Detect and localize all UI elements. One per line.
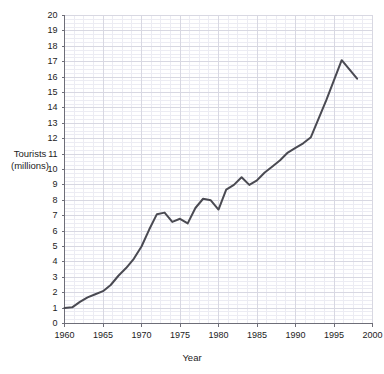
y-tick-label: 11 [38, 150, 58, 159]
x-tick-label: 2000 [353, 331, 384, 340]
y-tick-label: 4 [38, 257, 58, 266]
y-tick-label: 7 [38, 211, 58, 220]
y-tick-label: 2 [38, 288, 58, 297]
x-tick-label: 1990 [276, 331, 316, 340]
y-tick-label: 3 [38, 273, 58, 282]
y-tick-label: 10 [38, 165, 58, 174]
x-tick-label: 1975 [160, 331, 200, 340]
x-tick-label: 1980 [199, 331, 239, 340]
x-tick-label: 1995 [314, 331, 354, 340]
y-tick-label: 20 [38, 11, 58, 20]
y-tick-label: 17 [38, 57, 58, 66]
y-tick-label: 15 [38, 88, 58, 97]
y-tick-label: 13 [38, 119, 58, 128]
y-tick-label: 14 [38, 103, 58, 112]
y-tick-label: 0 [38, 319, 58, 328]
y-tick-label: 6 [38, 227, 58, 236]
y-tick-label: 19 [38, 26, 58, 35]
y-tick-label: 5 [38, 242, 58, 251]
major-gridlines [65, 16, 373, 324]
x-tick-label: 1965 [83, 331, 123, 340]
y-tick-label: 16 [38, 73, 58, 82]
y-tick-label: 8 [38, 196, 58, 205]
data-series-line [65, 60, 358, 308]
y-tick-label: 12 [38, 134, 58, 143]
x-tick-label: 1985 [237, 331, 277, 340]
x-tick-label: 1960 [45, 331, 85, 340]
tourists-line-chart: Tourists (millions) Year 012345678910111… [0, 0, 384, 374]
x-tick-label: 1970 [122, 331, 162, 340]
series-polyline [65, 60, 358, 308]
y-tick-label: 18 [38, 42, 58, 51]
y-tick-label: 1 [38, 304, 58, 313]
plot-area [0, 0, 384, 374]
y-tick-label: 9 [38, 180, 58, 189]
